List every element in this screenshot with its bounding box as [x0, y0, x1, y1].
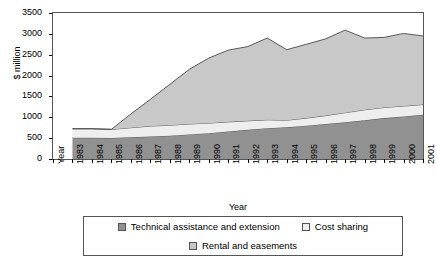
x-axis-tick-mark [111, 159, 112, 163]
y-axis-title: $ million [12, 28, 22, 98]
x-axis-tick-label: 1988 [174, 144, 183, 164]
x-axis-tick-label: 1983 [76, 144, 85, 164]
x-axis-tick-mark [287, 159, 288, 163]
x-axis-tick-label: 1999 [388, 144, 397, 164]
y-axis-tick-label: 0 [8, 154, 42, 163]
x-axis-tick-mark [267, 159, 268, 163]
x-axis-tick-label: 1998 [369, 144, 378, 164]
x-axis-tick-mark [92, 159, 93, 163]
y-axis-tick-label: 2500 [8, 50, 42, 59]
y-axis-tick-label: 500 [8, 133, 42, 142]
x-axis-tick-mark [170, 159, 171, 163]
x-axis-tick-label: 2001 [427, 144, 436, 164]
x-axis-tick-mark [53, 159, 54, 163]
y-axis-tick-label: 3500 [8, 8, 42, 17]
x-axis-tick-label: 1992 [252, 144, 261, 164]
x-axis-tick-mark [209, 159, 210, 163]
x-axis-tick-mark [384, 159, 385, 163]
chart-legend: Technical assistance and extension Cost … [83, 216, 403, 256]
x-axis-tick-mark [404, 159, 405, 163]
x-axis-tick-label: 1989 [193, 144, 202, 164]
x-axis-tick-label: 1997 [349, 144, 358, 164]
y-axis-tick-label: 1500 [8, 91, 42, 100]
legend-swatch-icon-cost-sharing [302, 223, 310, 231]
y-axis-tick-label: 3000 [8, 29, 42, 38]
x-axis-tick-mark [72, 159, 73, 163]
y-axis-tick-label: 2000 [8, 71, 42, 80]
x-axis-tick-label: 1990 [213, 144, 222, 164]
x-axis-title: Year [52, 202, 424, 212]
x-axis-tick-label: 1991 [232, 144, 241, 164]
legend-swatch-icon-technical-assistance [118, 223, 126, 231]
legend-item-rental-easements[interactable]: Rental and easements [189, 241, 297, 251]
x-axis-tick-mark [228, 159, 229, 163]
x-axis-tick-mark [365, 159, 366, 163]
legend-row-1: Technical assistance and extension Cost … [84, 217, 402, 236]
legend-swatch-icon-rental-easements [189, 242, 197, 250]
legend-row-2: Rental and easements [84, 236, 402, 255]
x-axis-tick-label: 1995 [310, 144, 319, 164]
legend-label-technical-assistance: Technical assistance and extension [131, 222, 280, 232]
x-axis-tick-label: 1996 [330, 144, 339, 164]
x-axis-tick-label: 1994 [291, 144, 300, 164]
x-axis-tick-label: 1985 [115, 144, 124, 164]
legend-label-rental-easements: Rental and easements [202, 241, 297, 251]
y-axis-tick-label: 1000 [8, 112, 42, 121]
x-axis-tick-label: 1993 [271, 144, 280, 164]
x-axis-tick-mark [423, 159, 424, 163]
x-axis-tick-mark [345, 159, 346, 163]
plot-area [52, 12, 424, 160]
x-axis-tick-mark [131, 159, 132, 163]
x-axis-tick-mark [306, 159, 307, 163]
x-axis-tick-label: Year [57, 146, 66, 164]
area-series-group [53, 13, 423, 159]
x-axis-tick-mark [326, 159, 327, 163]
x-axis-tick-mark [189, 159, 190, 163]
legend-item-technical-assistance[interactable]: Technical assistance and extension [118, 222, 280, 232]
x-axis-tick-label: 1987 [154, 144, 163, 164]
x-axis-tick-label: 1986 [135, 144, 144, 164]
legend-label-cost-sharing: Cost sharing [315, 222, 368, 232]
x-axis-tick-label: 2000 [408, 144, 417, 164]
x-axis-tick-label: 1984 [96, 144, 105, 164]
legend-item-cost-sharing[interactable]: Cost sharing [302, 222, 368, 232]
x-axis-tick-mark [248, 159, 249, 163]
x-axis-tick-mark [150, 159, 151, 163]
